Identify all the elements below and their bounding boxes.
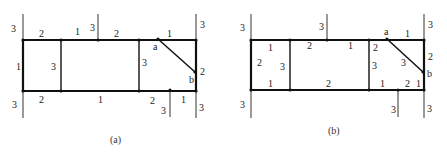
label: 3 bbox=[240, 99, 245, 110]
node-label-a: a bbox=[153, 41, 158, 52]
label: 3 bbox=[90, 22, 95, 33]
nodes bbox=[21, 37, 197, 92]
label: 3 bbox=[12, 99, 17, 110]
node-label-b: b bbox=[427, 68, 432, 79]
label: 1 bbox=[75, 26, 80, 37]
label: 1 bbox=[380, 78, 385, 89]
label: 3 bbox=[51, 61, 56, 72]
label: 3 bbox=[391, 104, 396, 115]
label: 2 bbox=[150, 95, 155, 106]
label: 1 bbox=[416, 78, 421, 89]
diagonal-ab bbox=[158, 39, 195, 72]
label: 3 bbox=[372, 60, 377, 71]
label: 3 bbox=[240, 22, 245, 33]
label: 2 bbox=[39, 94, 44, 105]
figure: 3 2 1 3 2 1 3 1 3 3 2 a b 3 2 1 2 3 1 3 … bbox=[0, 0, 447, 153]
label: 2 bbox=[428, 51, 433, 62]
label: 3 bbox=[200, 19, 205, 30]
label: 2 bbox=[39, 28, 44, 39]
label: 1 bbox=[268, 42, 273, 53]
label: 1 bbox=[348, 40, 353, 51]
label: 3 bbox=[11, 23, 16, 34]
label: 1 bbox=[98, 94, 103, 105]
node-label-a: a bbox=[384, 26, 389, 37]
label: 2 bbox=[257, 57, 262, 68]
label: 3 bbox=[161, 105, 166, 116]
label: 3 bbox=[280, 61, 285, 72]
label: 3 bbox=[319, 21, 324, 32]
label: 2 bbox=[373, 42, 378, 53]
label: 1 bbox=[16, 61, 21, 72]
label: 3 bbox=[428, 19, 433, 30]
label: 2 bbox=[200, 66, 205, 77]
caption-b: (b) bbox=[328, 125, 340, 137]
node-label-b: b bbox=[189, 74, 194, 85]
label: 3 bbox=[401, 57, 406, 68]
label: 2 bbox=[405, 78, 410, 89]
label: 2 bbox=[307, 40, 312, 51]
diagram-b: 3 3 3 a 1 1 2 3 1 2 1 2 2 3 3 1 2 2 b 1 … bbox=[240, 14, 433, 137]
label: 3 bbox=[199, 102, 204, 113]
label: 2 bbox=[326, 78, 331, 89]
label: 1 bbox=[405, 28, 410, 39]
label: 1 bbox=[181, 94, 186, 105]
label: 1 bbox=[268, 78, 273, 89]
caption-a: (a) bbox=[110, 134, 121, 146]
diagram-a: 3 2 1 3 2 1 3 1 3 3 2 a b 3 2 1 2 3 1 3 … bbox=[11, 14, 205, 146]
label: 3 bbox=[427, 103, 432, 114]
label: 1 bbox=[167, 28, 172, 39]
nodes bbox=[249, 37, 425, 91]
label: 3 bbox=[142, 57, 147, 68]
label: 2 bbox=[114, 28, 119, 39]
